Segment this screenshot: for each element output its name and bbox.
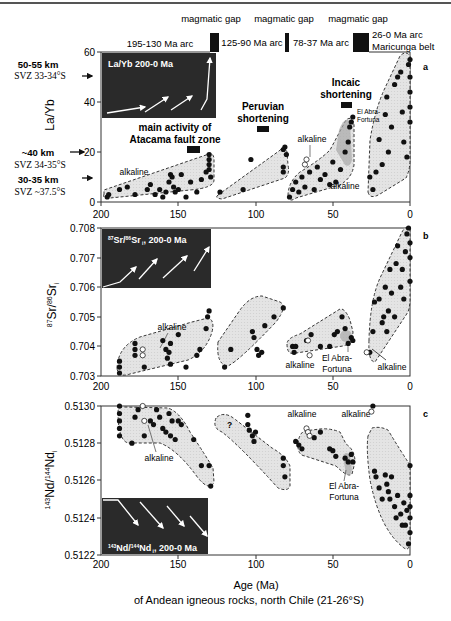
data-point [315,164,320,169]
data-point [407,119,412,124]
data-point [281,169,286,174]
data-point [191,437,196,442]
gap-label-1: magmatic gap [181,13,241,24]
data-point [395,493,400,498]
data-point [394,261,399,266]
arc-label-125-90: 125-90 Ma arc [221,37,283,48]
data-point [173,437,178,442]
data-point [157,187,162,192]
arc-label-78-37: 78-37 Ma arc [293,37,349,48]
data-point [377,296,382,301]
data-point [197,347,202,352]
panel-b-ytick-0704: 0.704 [70,341,95,352]
data-point [302,184,307,189]
panel-b-inset-title: 87Sr/86Sr i, 200-0 Ma [108,235,187,246]
data-point [293,344,298,349]
arc-label-maricunga: Maricunga belt [372,41,435,52]
figure: magmatic gap magmatic gap magmatic gap 1… [0,0,451,621]
data-point [389,474,394,479]
data-point [250,329,255,334]
data-point [194,189,199,194]
data-point [343,326,348,331]
data-point [208,174,213,179]
data-point [386,489,391,494]
panel-c-ytick-05122: 0.5122 [64,550,95,561]
data-point [387,497,392,502]
panel-a-letter: a [423,62,429,72]
data-point [217,189,222,194]
panel-c-question: ? [227,420,232,430]
panel-b-ytick-0703: 0.703 [70,371,95,382]
data-point [407,240,412,245]
data-point [377,137,382,142]
data-point [281,456,286,461]
data-point [142,433,147,438]
panel-c: 143Nd/144Nd i, 200-0 Ma 0.5130 0.5128 0.… [43,401,428,570]
data-point [281,463,286,468]
data-point [290,187,295,192]
data-point [117,370,122,375]
panel-b-alkaline-2: alkaline [286,360,315,370]
depth-30-35: 30-35 km [18,174,59,185]
arc-label-195-130: 195-130 Ma arc [127,38,194,49]
data-point [407,530,412,535]
data-point [281,164,286,169]
data-point [205,314,210,319]
panel-a-xtick-50: 50 [327,209,339,220]
panel-c-xtick-150: 150 [170,559,187,570]
data-point [406,225,411,230]
data-point [142,365,147,370]
panel-c-xtick-0: 0 [407,559,413,570]
data-point [251,335,256,340]
data-point [386,308,391,313]
panel-b-ytick-0707: 0.707 [70,253,95,264]
data-point [386,149,391,154]
data-point [282,144,287,149]
data-point [347,124,352,129]
data-point [188,179,193,184]
data-point [346,459,351,464]
arc-header: magmatic gap magmatic gap magmatic gap 1… [127,13,435,52]
data-point [395,74,400,79]
data-point [370,187,375,192]
alkaline-point [302,162,307,167]
data-point [346,341,351,346]
data-point [207,308,212,313]
data-point [179,172,184,177]
data-point [117,359,122,364]
data-point [259,350,264,355]
data-point [398,511,403,516]
panel-b-ylabel: 87Sr/86Sri [45,282,60,327]
panel-c-alkaline-2: alkaline [288,409,317,419]
data-point [407,104,412,109]
data-point [403,249,408,254]
data-point [406,62,411,67]
data-point [253,430,258,435]
data-point [251,439,256,444]
panel-c-xtick-200: 200 [93,559,110,570]
data-point [350,459,355,464]
data-point [394,515,399,520]
panel-b-xtick-100: 100 [248,381,265,392]
data-point [148,182,153,187]
alkaline-point [140,353,145,358]
data-point [168,362,173,367]
atacama-label-2: Atacama fault zone [129,134,221,145]
data-point [183,365,188,370]
data-point [299,446,304,451]
svz-33-34: SVZ 33-34°S [14,71,66,81]
data-point [207,152,212,157]
depth-40: ~40 km [22,147,55,158]
panel-b-xtick-200: 200 [93,381,110,392]
data-point [372,469,377,474]
alkaline-point [307,433,312,438]
data-point [350,114,355,119]
data-point [117,418,122,423]
depth-50-55: 50-55 km [18,59,59,70]
data-point [160,194,165,199]
data-point [389,124,394,129]
data-point [194,353,199,358]
alkaline-point [140,403,145,408]
data-point [170,174,175,179]
data-point [398,69,403,74]
